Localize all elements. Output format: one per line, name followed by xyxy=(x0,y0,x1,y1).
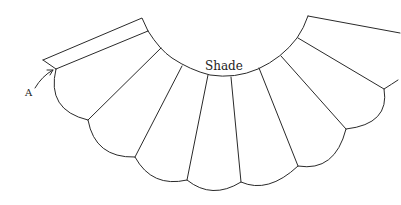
marker-a: A xyxy=(24,70,53,98)
arrow-icon xyxy=(35,70,53,88)
shade-pattern-diagram: A Shade xyxy=(0,0,401,205)
arrowhead-icon xyxy=(47,70,53,75)
right-band xyxy=(308,16,400,33)
left-band xyxy=(43,18,148,69)
label-a: A xyxy=(24,87,33,98)
scalloped-edge xyxy=(54,69,398,191)
label-shade: Shade xyxy=(205,59,243,73)
